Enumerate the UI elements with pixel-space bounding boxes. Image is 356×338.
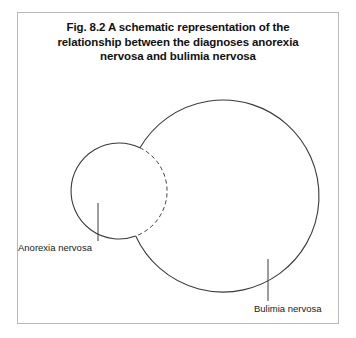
figure-root: Fig. 8.2 A schematic representation of t… [0,0,356,338]
caption-line-1: Fig. 8.2 A schematic representation of t… [24,20,332,35]
figure-caption: Fig. 8.2 A schematic representation of t… [24,20,332,64]
label-anorexia-nervosa: Anorexia nervosa [18,242,92,253]
caption-line-3: nervosa and bulimia nervosa [24,49,332,64]
caption-line-2: relationship between the diagnoses anore… [24,35,332,50]
label-bulimia-nervosa: Bulimia nervosa [254,303,322,314]
